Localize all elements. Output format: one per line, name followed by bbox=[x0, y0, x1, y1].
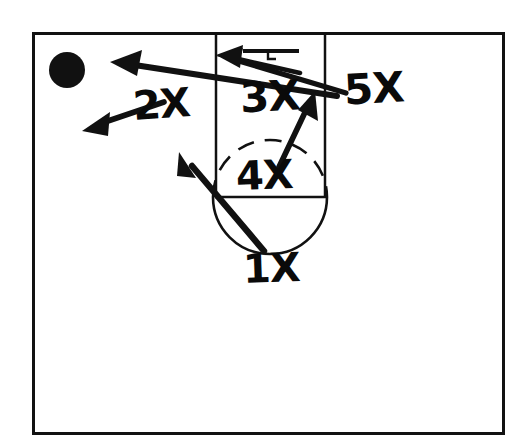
ball-icon bbox=[49, 52, 85, 88]
basketball-play-diagram: 1X 2X 3X 4X 5X bbox=[0, 0, 520, 443]
player-label-2x: 2X bbox=[132, 82, 191, 126]
court-canvas bbox=[0, 0, 520, 443]
player-label-3x: 3X bbox=[239, 74, 301, 119]
player-label-4x: 4X bbox=[235, 154, 293, 196]
player-label-5x: 5X bbox=[343, 66, 405, 111]
player-label-1x: 1X bbox=[242, 247, 300, 289]
